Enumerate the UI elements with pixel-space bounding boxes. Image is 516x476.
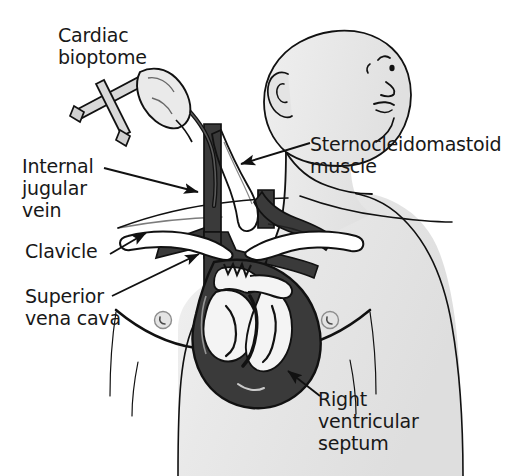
arrow-to-internal-jugular-vein [104, 168, 198, 192]
label-internal-jugular-vein: Internal jugular vein [22, 155, 94, 221]
nipple-right [322, 312, 339, 329]
label-sternocleidomastoid-muscle: Sternocleidomastoid muscle [310, 133, 501, 177]
label-cardiac-bioptome: Cardiac bioptome [58, 24, 147, 68]
arrow-to-superior-vena-cava [112, 254, 199, 296]
label-right-ventricular-septum: Right ventricular septum [318, 388, 419, 454]
label-superior-vena-cava: Superior vena cava [25, 285, 121, 329]
anatomy-figure: Cardiac bioptome Internal jugular vein C… [0, 0, 516, 476]
label-clavicle: Clavicle [25, 240, 98, 262]
nipple-left [155, 312, 172, 329]
anatomy-illustration [0, 0, 516, 476]
operator-hand [137, 69, 192, 142]
